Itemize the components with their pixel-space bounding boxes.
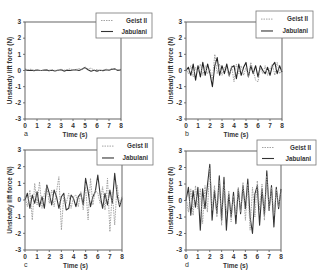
x-tick-label: 0 [184,253,188,260]
plot-frame [186,151,281,250]
y-tick-label: 0 [178,197,182,204]
legend-label-geist: Geist II [290,144,311,151]
x-tick-label: 1 [196,253,200,260]
y-tick-label: 1 [178,180,182,187]
x-tick-label: 7 [267,253,271,260]
legend-label-jabulani: Jabulani [285,155,311,162]
panel-d: -3-2-10123012345678Time (s)dUnsteady lif… [0,0,318,277]
x-tick-label: 3 [220,253,224,260]
y-tick-label: 2 [178,164,182,171]
x-tick-label: 6 [255,253,259,260]
x-axis-label: Time (s) [223,262,248,270]
x-tick-label: 4 [232,253,236,260]
y-tick-label: -2 [176,230,182,237]
panel-letter: d [185,261,189,268]
y-axis-label: Unsteady lift force (N) [167,167,175,235]
x-tick-label: 2 [208,253,212,260]
legend: Geist IIJabulani [257,140,316,165]
y-tick-label: -1 [176,213,182,220]
chart-svg: -3-2-10123012345678Time (s)dUnsteady lif… [0,0,318,277]
x-tick-label: 8 [279,253,283,260]
y-tick-label: -3 [176,246,182,253]
x-tick-label: 5 [244,253,248,260]
y-tick-label: 3 [178,147,182,154]
